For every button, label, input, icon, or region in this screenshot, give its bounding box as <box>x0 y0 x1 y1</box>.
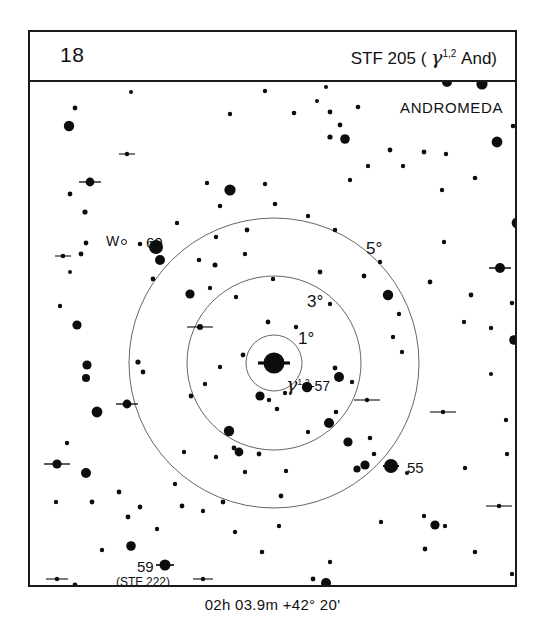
star-marker <box>379 520 383 524</box>
star-marker <box>73 106 78 111</box>
star-marker <box>277 524 281 528</box>
star-marker <box>442 240 446 244</box>
star-marker <box>430 520 439 529</box>
ring-label-1deg: 1° <box>298 330 314 347</box>
star-marker <box>54 500 58 504</box>
star-marker <box>241 353 246 358</box>
star-marker <box>510 301 515 306</box>
gamma-symbol: γ <box>286 373 297 395</box>
star-marker <box>151 277 156 282</box>
star-marker <box>160 560 171 571</box>
star-marker <box>505 452 509 456</box>
star-marker <box>141 370 146 375</box>
star-label-gamma: γ1,2-57 <box>286 375 330 394</box>
star-marker <box>348 178 352 182</box>
star-marker <box>338 123 343 128</box>
star-marker <box>315 99 319 103</box>
star-marker <box>321 578 331 585</box>
star-marker <box>324 85 328 89</box>
star-marker <box>279 494 284 499</box>
star-marker <box>400 350 404 354</box>
star-marker <box>492 137 503 148</box>
star-marker <box>334 372 344 382</box>
star-marker <box>372 452 377 457</box>
star-marker <box>366 164 370 168</box>
star-marker <box>185 289 194 298</box>
open-circle-icon <box>121 239 127 245</box>
star-marker <box>343 437 352 446</box>
star-marker <box>125 152 129 156</box>
star-marker <box>264 353 285 374</box>
star-marker <box>65 441 69 445</box>
star-marker <box>510 572 514 576</box>
star-marker <box>443 524 447 528</box>
west-letter: W <box>106 233 119 249</box>
chart-header: 18 STF 205 ( γ1,2 And) <box>30 32 515 82</box>
star-marker <box>267 398 271 402</box>
star-marker <box>86 178 95 187</box>
star-marker <box>334 410 339 415</box>
gamma-symbol: γ <box>431 46 442 68</box>
star-marker <box>365 398 369 402</box>
star-marker <box>397 312 401 316</box>
star-marker <box>511 124 515 129</box>
star-marker <box>64 121 74 131</box>
star-marker <box>100 548 104 552</box>
star-label-59-designation: (STF 222) <box>116 576 170 585</box>
star-chart-frame: 18 STF 205 ( γ1,2 And) ANDROMEDA 5° 3° 1… <box>28 30 517 587</box>
star-marker <box>442 82 452 87</box>
star-marker <box>214 455 218 459</box>
star-marker <box>266 320 271 325</box>
star-marker <box>224 426 234 436</box>
star-marker <box>362 274 367 279</box>
star-marker <box>221 500 226 505</box>
star-marker <box>495 263 505 273</box>
star-marker <box>155 527 159 531</box>
star-marker <box>129 90 133 94</box>
star-marker <box>512 218 515 229</box>
star-marker <box>81 468 91 478</box>
star-marker <box>218 204 223 209</box>
star-marker <box>423 547 428 552</box>
star-marker <box>255 391 264 400</box>
star-marker <box>205 181 209 185</box>
star-marker <box>245 228 250 233</box>
star-marker <box>123 400 132 409</box>
chart-coordinates: 02h 03.9m +42° 20' <box>0 596 545 613</box>
west-direction-label: W <box>106 234 127 248</box>
gamma-superscript: 1,2 <box>297 377 310 387</box>
star-marker <box>422 514 426 518</box>
star-marker <box>155 255 165 265</box>
star-marker <box>82 360 91 369</box>
chart-number: 18 <box>60 43 84 67</box>
star-marker <box>360 460 369 469</box>
star-marker <box>197 258 202 263</box>
star-marker <box>328 110 333 115</box>
star-marker <box>462 320 466 324</box>
star-marker <box>214 235 218 239</box>
star-marker <box>311 577 316 582</box>
star-marker <box>504 418 508 422</box>
star-marker <box>73 583 78 585</box>
star-marker <box>476 82 487 90</box>
star-marker <box>384 459 398 473</box>
star-marker <box>306 214 310 218</box>
star-marker <box>68 192 73 197</box>
ring-label-3deg: 3° <box>307 293 323 310</box>
star-marker <box>444 152 448 156</box>
star-marker <box>138 242 143 247</box>
star-marker <box>353 465 360 472</box>
star-marker <box>189 394 194 399</box>
star-label-55: 55 <box>407 460 424 475</box>
ring-label-5deg: 5° <box>366 240 382 257</box>
star-marker <box>243 252 247 256</box>
star-marker <box>233 530 237 534</box>
star-plot-canvas <box>30 82 515 585</box>
star-marker <box>356 105 361 110</box>
page-title: STF 205 ( γ1,2 And) <box>351 46 497 69</box>
star-marker <box>271 277 275 281</box>
star-marker <box>58 304 62 308</box>
title-prefix: STF 205 ( <box>351 49 431 68</box>
star-marker <box>318 270 323 275</box>
star-marker <box>201 509 205 513</box>
